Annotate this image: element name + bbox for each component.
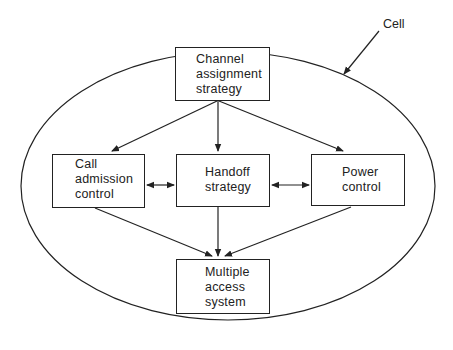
node-label-line: control [342, 180, 381, 195]
node-label-line: admission [75, 172, 133, 187]
edge-call-multiple [95, 208, 212, 256]
node-label-line: Handoff [205, 165, 251, 180]
node-handoff-strategy: Handoff strategy [176, 154, 270, 207]
node-label-line: control [75, 187, 133, 202]
node-power-control: Power control [311, 154, 405, 206]
node-multiple-access-system: Multiple access system [176, 259, 270, 314]
node-label-line: Multiple [205, 265, 250, 280]
node-label-line: access [205, 280, 250, 295]
cell-label: Cell [383, 17, 405, 31]
edge-channel-call [112, 101, 217, 151]
node-channel-assignment-strategy: Channel assignment strategy [175, 47, 270, 101]
node-label-line: strategy [205, 180, 251, 195]
edge-power-multiple [225, 207, 351, 256]
node-call-admission-control: Call admission control [52, 154, 145, 208]
node-label-line: Call [75, 157, 133, 172]
cell-pointer-arrow [344, 31, 379, 74]
node-label-line: assignment [196, 67, 262, 82]
node-label-line: Power [342, 165, 381, 180]
node-label-line: strategy [196, 82, 262, 97]
edge-channel-power [219, 101, 343, 151]
node-label-line: Channel [196, 52, 262, 67]
node-label-line: system [205, 295, 250, 310]
